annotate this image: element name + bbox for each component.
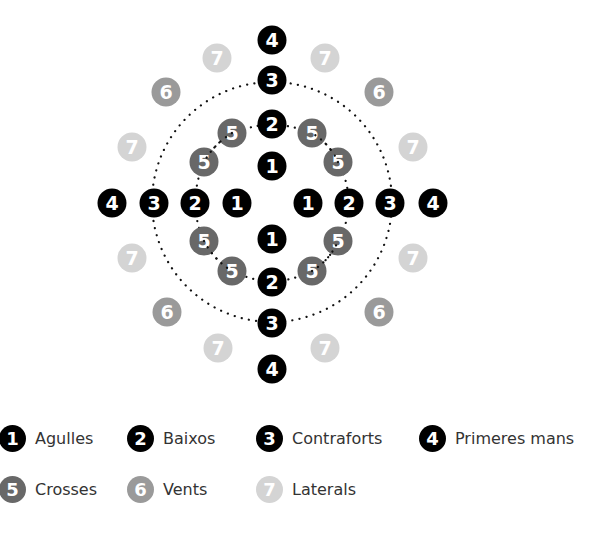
- legend-item-baixos: 2 Baixos: [127, 424, 215, 452]
- position-node-1: 1: [223, 189, 252, 218]
- position-node-6: 6: [153, 298, 182, 327]
- legend-label: Baixos: [163, 429, 215, 448]
- position-node-5: 5: [298, 257, 327, 286]
- position-node-4: 4: [258, 26, 287, 55]
- position-node-1: 1: [258, 225, 287, 254]
- position-node-3: 3: [140, 189, 169, 218]
- position-node-7: 7: [118, 133, 147, 162]
- position-node-3: 3: [376, 189, 405, 218]
- position-node-5: 5: [190, 148, 219, 177]
- position-node-5: 5: [218, 257, 247, 286]
- inner-dotted-ring: [195, 124, 349, 282]
- position-node-7: 7: [118, 244, 147, 273]
- position-node-5: 5: [324, 148, 353, 177]
- position-node-5: 5: [190, 227, 219, 256]
- legend-item-laterals: 7 Laterals: [256, 475, 356, 503]
- number-6-icon: 6: [127, 476, 154, 503]
- position-node-6: 6: [365, 78, 394, 107]
- position-node-7: 7: [311, 44, 340, 73]
- legend-item-vents: 6 Vents: [127, 475, 207, 503]
- number-4-icon: 4: [419, 425, 446, 452]
- legend-label: Primeres mans: [455, 429, 574, 448]
- legend-label: Vents: [163, 480, 207, 499]
- legend-label: Contraforts: [292, 429, 382, 448]
- number-7-icon: 7: [256, 476, 283, 503]
- position-node-2: 2: [181, 189, 210, 218]
- castell-formation-diagram: 477366255775514321123415577552663774: [0, 0, 600, 400]
- number-2-icon: 2: [127, 425, 154, 452]
- position-node-3: 3: [258, 309, 287, 338]
- position-node-5: 5: [298, 119, 327, 148]
- position-node-1: 1: [258, 152, 287, 181]
- number-5-icon: 5: [0, 476, 26, 503]
- number-3-icon: 3: [256, 425, 283, 452]
- position-node-3: 3: [258, 66, 287, 95]
- position-node-5: 5: [324, 227, 353, 256]
- position-node-2: 2: [335, 189, 364, 218]
- position-node-4: 4: [419, 189, 448, 218]
- legend-item-crosses: 5 Crosses: [0, 475, 97, 503]
- legend-label: Agulles: [35, 429, 93, 448]
- position-node-2: 2: [258, 110, 287, 139]
- legend-label: Laterals: [292, 480, 356, 499]
- position-node-2: 2: [258, 268, 287, 297]
- position-node-4: 4: [98, 189, 127, 218]
- legend-item-contraforts: 3 Contraforts: [256, 424, 382, 452]
- position-node-6: 6: [152, 78, 181, 107]
- position-node-7: 7: [311, 334, 340, 363]
- position-node-6: 6: [365, 298, 394, 327]
- legend-item-agulles: 1 Agulles: [0, 424, 93, 452]
- position-node-4: 4: [258, 355, 287, 384]
- legend-label: Crosses: [35, 480, 97, 499]
- position-node-7: 7: [204, 334, 233, 363]
- position-node-7: 7: [203, 44, 232, 73]
- position-node-5: 5: [218, 119, 247, 148]
- number-1-icon: 1: [0, 425, 26, 452]
- position-node-7: 7: [399, 244, 428, 273]
- legend: 1 Agulles 2 Baixos 3 Contraforts 4 Prime…: [0, 415, 600, 515]
- position-node-1: 1: [294, 189, 323, 218]
- legend-item-primeres-mans: 4 Primeres mans: [419, 424, 574, 452]
- position-node-7: 7: [399, 133, 428, 162]
